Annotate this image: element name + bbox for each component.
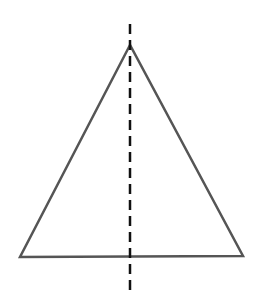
diagram-canvas bbox=[0, 0, 261, 304]
isosceles-triangle bbox=[20, 45, 243, 257]
triangle-diagram bbox=[0, 0, 261, 304]
